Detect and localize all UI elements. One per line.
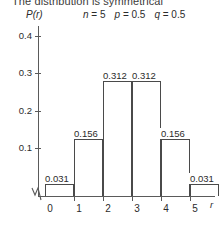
x-tick-mark — [103, 197, 104, 201]
x-axis-line — [38, 196, 215, 197]
y-tick-mark — [35, 148, 41, 149]
histogram-bar — [45, 184, 74, 196]
chart-screenshot: The distribution is symmetrical P(r) n =… — [0, 0, 223, 226]
plot-area: 0.40.30.20.1 012345 0.0310.1560.3120.312… — [0, 0, 223, 226]
histogram-bar — [103, 81, 132, 196]
bar-value-label: 0.031 — [44, 173, 70, 184]
y-tick-mark — [35, 111, 41, 112]
histogram-bar — [190, 184, 219, 196]
x-tick-mark — [161, 197, 162, 201]
bar-value-label: 0.312 — [131, 70, 157, 81]
bar-value-label: 0.156 — [73, 128, 99, 139]
bar-value-label: 0.312 — [102, 70, 128, 81]
histogram-bar — [161, 139, 190, 196]
x-axis-label: r — [210, 199, 213, 210]
axis-break-icon — [31, 186, 45, 202]
x-tick-label: 2 — [98, 203, 118, 214]
y-tick-label: 0.1 — [10, 142, 32, 153]
x-tick-label: 1 — [69, 203, 89, 214]
x-tick-mark — [74, 197, 75, 201]
x-tick-label: 3 — [127, 203, 147, 214]
y-tick-label: 0.4 — [10, 30, 32, 41]
histogram-bar — [74, 139, 103, 196]
x-tick-label: 4 — [156, 203, 176, 214]
y-tick-mark — [35, 36, 41, 37]
y-tick-label: 0.3 — [10, 67, 32, 78]
x-tick-label: 5 — [185, 203, 205, 214]
bar-value-label: 0.031 — [189, 173, 215, 184]
histogram-bar — [132, 81, 161, 196]
y-tick-label: 0.2 — [10, 105, 32, 116]
bar-value-label: 0.156 — [160, 128, 186, 139]
x-tick-label: 0 — [40, 203, 60, 214]
y-tick-mark — [35, 73, 41, 74]
x-tick-mark — [190, 197, 191, 201]
x-tick-mark — [132, 197, 133, 201]
